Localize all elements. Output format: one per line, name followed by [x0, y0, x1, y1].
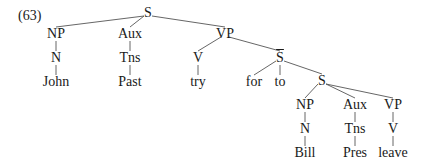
- tree-node-for: for: [246, 75, 262, 89]
- tree-node-john: John: [43, 75, 69, 89]
- tree-node-v2: V: [388, 122, 398, 136]
- syntax-tree-diagram: (63) SNPAuxVPNTnsVJohnPasttrySfortoSNPAu…: [0, 0, 428, 165]
- edge-sbar-for: [254, 61, 276, 75]
- example-number: (63): [18, 9, 41, 23]
- tree-node-aux1: Aux: [118, 27, 142, 41]
- tree-node-tns1: Tns: [120, 51, 141, 65]
- edge-s2-aux2: [326, 84, 355, 98]
- tree-node-vp2: VP: [384, 98, 402, 112]
- tree-node-bill: Bill: [294, 146, 315, 160]
- tree-node-n1: N: [51, 51, 61, 65]
- tree-node-to: to: [275, 75, 286, 89]
- tree-node-leave: leave: [378, 146, 408, 160]
- tree-node-sbar: S: [276, 51, 284, 65]
- tree-node-vp1: VP: [216, 27, 234, 41]
- edge-s2-np2: [305, 84, 318, 98]
- tree-node-aux2: Aux: [343, 98, 367, 112]
- tree-node-tns2: Tns: [345, 122, 366, 136]
- edge-vp1-sbar: [229, 37, 280, 51]
- edge-sbar-s2: [284, 61, 322, 74]
- tree-node-v1: V: [193, 51, 203, 65]
- edge-s2-vp2: [326, 84, 393, 98]
- tree-node-s2: S: [318, 74, 326, 88]
- tree-node-np2: NP: [296, 98, 314, 112]
- tree-node-np1: NP: [47, 27, 65, 41]
- tree-node-s1: S: [144, 6, 152, 20]
- tree-node-try: try: [190, 75, 206, 89]
- tree-node-pres: Pres: [343, 146, 367, 160]
- tree-node-past: Past: [118, 75, 141, 89]
- edge-s1-vp1: [152, 16, 225, 27]
- tree-node-n2: N: [300, 122, 310, 136]
